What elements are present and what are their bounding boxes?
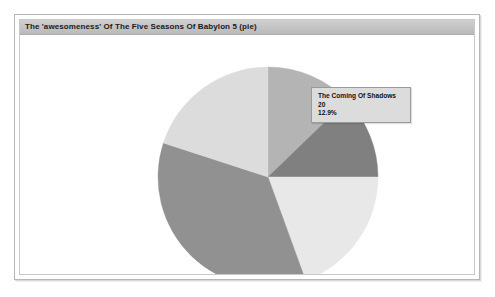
page-title: The 'awesomeness' Of The Five Seasons Of… bbox=[25, 22, 257, 31]
tooltip-percent: 12.9% bbox=[318, 109, 405, 118]
chart-window: The 'awesomeness' Of The Five Seasons Of… bbox=[14, 14, 480, 280]
pie-chart-plot-area: The Coming Of Shadows 20 12.9% bbox=[20, 35, 474, 274]
tooltip-label: The Coming Of Shadows bbox=[318, 92, 405, 101]
chart-panel: The 'awesomeness' Of The Five Seasons Of… bbox=[19, 19, 475, 275]
chart-title-bar: The 'awesomeness' Of The Five Seasons Of… bbox=[20, 20, 474, 35]
pie-chart-svg bbox=[20, 35, 475, 275]
pie-tooltip: The Coming Of Shadows 20 12.9% bbox=[311, 87, 411, 123]
tooltip-value: 20 bbox=[318, 101, 405, 110]
